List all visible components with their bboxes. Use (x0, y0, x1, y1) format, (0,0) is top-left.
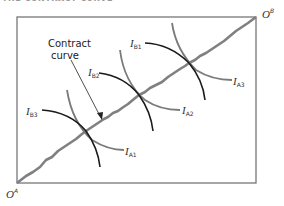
ic-a2 (120, 50, 180, 110)
ic-a3 (172, 23, 232, 80)
label-ib3: IB3 (26, 106, 38, 118)
annotation-line2: curve (48, 50, 91, 62)
ic-b2 (99, 73, 153, 131)
label-ia1: IA1 (125, 146, 137, 158)
label-ib1: IB1 (130, 38, 142, 50)
arrowhead-icon (97, 112, 103, 120)
edgeworth-box-diagram (0, 0, 284, 206)
ic-a1 (67, 90, 124, 150)
origin-a-label: OA (6, 188, 18, 200)
label-ia3: IA3 (233, 76, 245, 88)
origin-b-label: OB (262, 8, 274, 20)
annotation-line1: Contract (48, 38, 91, 50)
contract-curve-annotation: Contract curve (48, 38, 91, 62)
label-ib2: IB2 (88, 67, 100, 79)
label-ia2: IA2 (182, 105, 194, 117)
